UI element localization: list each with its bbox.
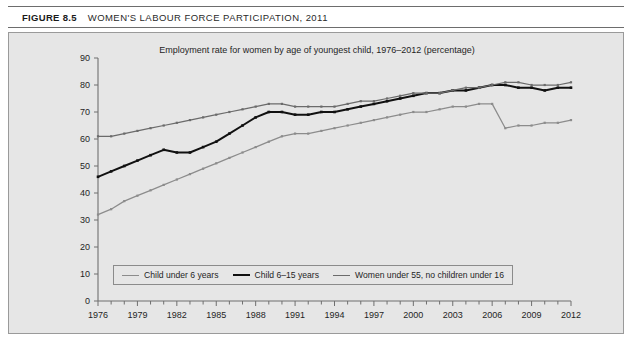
legend-item-child-under-6[interactable]: Child under 6 years [122, 270, 219, 280]
y-tick-label: 0 [85, 296, 90, 306]
chart-panel: Employment rate for women by age of youn… [8, 32, 624, 334]
figure-number: FIGURE 8.5 [22, 12, 77, 23]
x-tick-label: 1991 [285, 310, 305, 320]
legend-label: Women under 55, no children under 16 [355, 270, 504, 280]
x-tick-label: 2006 [482, 310, 502, 320]
chart-legend: Child under 6 years Child 6–15 years Wom… [113, 265, 513, 285]
y-tick-label: 10 [80, 269, 90, 279]
figure-header: FIGURE 8.5 WOMEN'S LABOUR FORCE PARTICIP… [8, 6, 624, 28]
x-tick-label: 2012 [561, 310, 581, 320]
x-tick-label: 1976 [88, 310, 108, 320]
y-tick-label: 60 [80, 134, 90, 144]
x-tick-label: 1997 [364, 310, 384, 320]
x-tick-label: 1994 [324, 310, 344, 320]
x-tick-label: 1985 [206, 310, 226, 320]
legend-line-icon [122, 275, 139, 276]
y-tick-label: 90 [80, 53, 90, 63]
series-1 [97, 84, 573, 178]
x-tick-label: 2000 [403, 310, 423, 320]
legend-line-icon [333, 275, 350, 276]
y-tick-label: 30 [80, 215, 90, 225]
x-tick-label: 2003 [443, 310, 463, 320]
line-chart: 0102030405060708090197619791982198519881… [9, 33, 625, 335]
legend-item-child-6-15[interactable]: Child 6–15 years [233, 270, 320, 280]
y-tick-label: 40 [80, 188, 90, 198]
x-tick-label: 1988 [246, 310, 266, 320]
legend-line-icon [233, 274, 250, 276]
y-tick-label: 20 [80, 242, 90, 252]
y-tick-label: 50 [80, 161, 90, 171]
y-tick-label: 80 [80, 80, 90, 90]
x-tick-label: 1982 [167, 310, 187, 320]
figure-title: WOMEN'S LABOUR FORCE PARTICIPATION, 2011 [88, 12, 328, 23]
series-0 [97, 103, 572, 216]
x-tick-label: 2009 [522, 310, 542, 320]
x-tick-label: 1979 [127, 310, 147, 320]
y-tick-label: 70 [80, 107, 90, 117]
figure-container: FIGURE 8.5 WOMEN'S LABOUR FORCE PARTICIP… [0, 0, 640, 344]
legend-item-women-under-55[interactable]: Women under 55, no children under 16 [333, 270, 504, 280]
legend-label: Child 6–15 years [255, 270, 320, 280]
legend-label: Child under 6 years [144, 270, 219, 280]
